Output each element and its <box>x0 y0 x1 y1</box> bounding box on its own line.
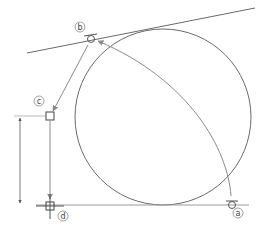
label-b-text: b <box>77 23 82 32</box>
label-d: d <box>58 211 68 221</box>
arrow-a-to-b <box>98 41 231 196</box>
construction-diagram: a b c d <box>0 0 267 236</box>
label-a-text: a <box>236 209 241 218</box>
point-c-marker[interactable] <box>46 112 54 120</box>
label-a: a <box>233 208 243 218</box>
label-b: b <box>75 22 85 32</box>
label-d-text: d <box>60 212 65 221</box>
tangent-line[interactable] <box>27 8 255 53</box>
arrow-b-to-c <box>53 45 88 111</box>
circle[interactable] <box>75 29 251 205</box>
label-c: c <box>34 96 44 106</box>
label-c-text: c <box>37 97 41 106</box>
dimension-line <box>14 116 46 203</box>
